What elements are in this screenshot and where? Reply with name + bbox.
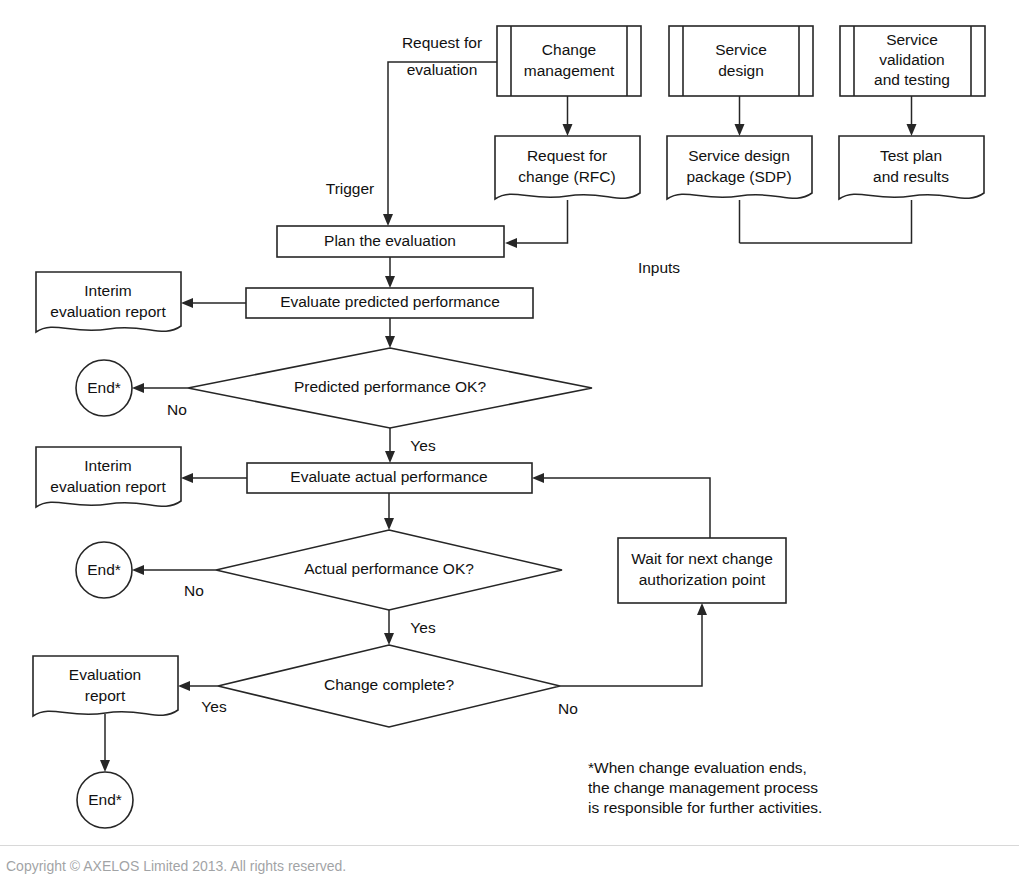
flowchart: Change management Service design Service…: [0, 0, 1019, 874]
wait-label-1: Wait for next change: [631, 550, 773, 567]
edge-label-complete-yes: Yes: [201, 698, 227, 715]
change-management-label-1: Change: [542, 41, 596, 58]
connector-actual-no-to-end: [132, 565, 216, 575]
node-end-1: End*: [76, 360, 132, 416]
node-service-validation-and-testing: Service validation and testing: [840, 26, 985, 96]
edge-label-trigger: Trigger: [326, 180, 375, 197]
rfc-label-1: Request for: [527, 147, 607, 164]
sdp-label-1: Service design: [688, 147, 790, 164]
service-validation-label-1: Service: [886, 31, 938, 48]
edge-label-actual-yes: Yes: [410, 619, 436, 636]
edge-label-predicted-yes: Yes: [410, 437, 436, 454]
evaluation-report-label-2: report: [85, 687, 126, 704]
service-validation-label-3: and testing: [874, 71, 950, 88]
service-design-label-2: design: [718, 62, 764, 79]
node-test-plan-document: Test plan and results: [839, 136, 984, 199]
connector-evaluation-report-to-end: [100, 714, 110, 772]
connector-request-for-evaluation: [383, 62, 497, 226]
node-rfc-document: Request for change (RFC): [495, 136, 640, 199]
node-change-management: Change management: [497, 26, 641, 96]
service-design-label-1: Service: [715, 41, 767, 58]
node-evaluate-actual-performance: Evaluate actual performance: [247, 463, 532, 493]
evaluate-actual-label: Evaluate actual performance: [290, 468, 487, 485]
sdp-label-2: package (SDP): [686, 168, 791, 185]
end-3-label: End*: [88, 791, 122, 808]
footnote-asterisk-note: *When change evaluation ends, the change…: [588, 758, 948, 818]
connector-evaluate-predicted-to-interim-report: [181, 298, 246, 308]
node-evaluation-report: Evaluation report: [33, 656, 178, 716]
node-sdp-document: Service design package (SDP): [667, 136, 812, 199]
copyright-notice: Copyright © AXELOS Limited 2013. All rig…: [6, 858, 346, 874]
edge-label-inputs: Inputs: [638, 259, 680, 276]
actual-decision-label: Actual performance OK?: [304, 560, 474, 577]
node-interim-evaluation-report-1: Interim evaluation report: [36, 272, 181, 332]
connector-predicted-yes-to-evaluate-actual: [385, 428, 395, 463]
connector-inputs-bus: [505, 200, 912, 248]
plan-the-evaluation-label: Plan the evaluation: [324, 232, 456, 249]
diagram-canvas: Change management Service design Service…: [0, 0, 1019, 874]
edge-label-request-for-evaluation-2: evaluation: [407, 61, 478, 78]
node-evaluate-predicted-performance: Evaluate predicted performance: [246, 288, 533, 318]
connector-service-design-to-sdp: [735, 96, 745, 136]
end-1-label: End*: [87, 379, 121, 396]
connector-change-management-to-rfc: [563, 96, 573, 136]
connector-evaluate-actual-to-interim-report: [181, 473, 247, 483]
connector-wait-to-evaluate-actual: [532, 473, 710, 538]
connector-actual-yes-to-change-complete: [384, 610, 394, 645]
predicted-decision-label: Predicted performance OK?: [294, 378, 487, 395]
evaluate-predicted-label: Evaluate predicted performance: [280, 293, 500, 310]
wait-label-2: authorization point: [639, 571, 766, 588]
node-interim-evaluation-report-2: Interim evaluation report: [36, 447, 181, 507]
edge-label-predicted-no: No: [167, 401, 187, 418]
connector-change-complete-yes-to-evaluation-report: [178, 681, 218, 691]
node-plan-the-evaluation: Plan the evaluation: [277, 226, 504, 257]
interim-report-1-label-1: Interim: [84, 282, 131, 299]
edge-label-actual-no: No: [184, 582, 204, 599]
node-change-complete-decision: Change complete?: [218, 645, 560, 727]
rfc-label-2: change (RFC): [518, 168, 615, 185]
node-wait-for-next-change-authorization-point: Wait for next change authorization point: [618, 538, 786, 603]
node-actual-performance-decision: Actual performance OK?: [216, 530, 562, 610]
connector-plan-to-evaluate-predicted: [385, 257, 395, 288]
edge-label-complete-no: No: [558, 700, 578, 717]
connector-predicted-no-to-end: [132, 383, 188, 393]
edge-label-request-for-evaluation-1: Request for: [402, 34, 482, 51]
test-plan-label-2: and results: [873, 168, 949, 185]
node-end-3: End*: [77, 772, 133, 828]
service-validation-label-2: validation: [879, 51, 945, 68]
test-plan-label-1: Test plan: [880, 147, 942, 164]
connector-change-complete-no-to-wait: [560, 603, 707, 686]
interim-report-2-label-1: Interim: [84, 457, 131, 474]
connector-service-validation-to-test-plan: [907, 96, 917, 136]
node-predicted-performance-decision: Predicted performance OK?: [188, 348, 592, 428]
connector-evaluate-predicted-to-decision: [385, 318, 395, 348]
interim-report-1-label-2: evaluation report: [50, 303, 166, 320]
evaluation-report-label-1: Evaluation: [69, 666, 141, 683]
change-management-label-2: management: [524, 62, 615, 79]
change-complete-label: Change complete?: [324, 676, 454, 693]
node-service-design: Service design: [669, 26, 813, 96]
interim-report-2-label-2: evaluation report: [50, 478, 166, 495]
page-divider: [0, 845, 1019, 846]
node-end-2: End*: [76, 542, 132, 598]
end-2-label: End*: [87, 561, 121, 578]
connector-evaluate-actual-to-decision: [384, 493, 394, 530]
